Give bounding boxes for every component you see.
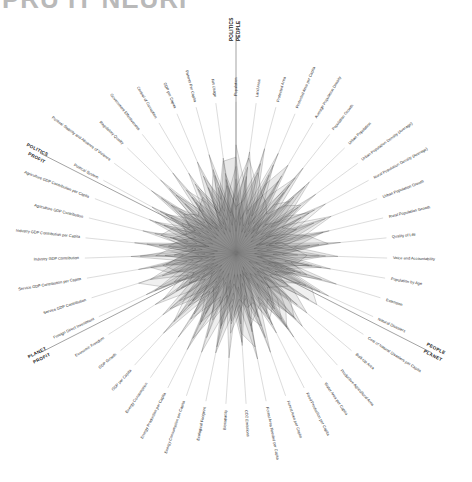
radar-chart-canvas: PRU IT NEURI PopulationLand AreaProtecte… [0,0,472,482]
group-divider-label: POLITICS [228,17,233,41]
axis-label: Biocapacity [222,410,227,430]
radar-plot-svg [0,0,472,482]
group-divider-label: PEOPLE [235,21,240,41]
axis-label: Population [234,78,238,96]
